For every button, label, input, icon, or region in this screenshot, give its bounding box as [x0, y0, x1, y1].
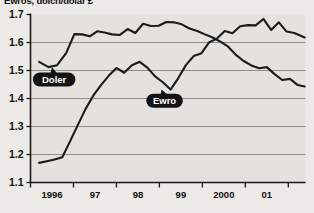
callout-label: Doler [42, 74, 67, 85]
y-tick-label: 1.3 [9, 120, 24, 132]
y-axis-labels: 1.11.21.31.41.51.61.7 [9, 8, 24, 188]
y-tick-label: 1.5 [9, 64, 24, 76]
y-tick-label: 1.7 [9, 8, 24, 20]
y-tick-label: 1.2 [9, 148, 24, 160]
callout-label: Ewro [153, 95, 176, 106]
x-tick-label: 99 [176, 189, 187, 200]
x-axis-labels: 1996979899200001 [41, 189, 272, 200]
y-tick-label: 1.4 [9, 92, 24, 104]
x-tick-label: 98 [133, 189, 144, 200]
x-tick-label: 1996 [41, 189, 62, 200]
line-chart-plot: 1.11.21.31.41.51.61.7 1996979899200001 D… [0, 0, 314, 213]
y-tick-label: 1.6 [9, 36, 24, 48]
x-tick-label: 97 [90, 189, 101, 200]
y-tick-label: 1.1 [9, 176, 24, 188]
x-tick-label: 01 [262, 189, 273, 200]
x-tick-label: 2000 [213, 189, 234, 200]
chart-container: Ewros, dolcn/dolar £ 1.11.21.31.41.51.61… [0, 0, 314, 213]
